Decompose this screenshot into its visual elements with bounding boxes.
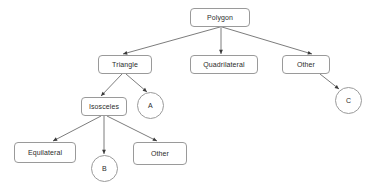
node-other-top[interactable]: Other — [282, 55, 330, 74]
node-label-circle-c: C — [346, 97, 351, 104]
node-label-circle-a: A — [148, 102, 153, 109]
edge-triangle-to-circle-a — [126, 74, 147, 92]
node-label-equilateral: Equilateral — [28, 149, 62, 156]
edge-triangle-to-isosceles — [101, 74, 122, 96]
node-polygon[interactable]: Polygon — [190, 8, 250, 27]
node-label-isosceles: Isosceles — [89, 103, 119, 110]
node-triangle[interactable]: Triangle — [98, 55, 152, 74]
node-label-other-top: Other — [297, 61, 315, 68]
edge-polygon-to-other-top — [222, 27, 312, 55]
edge-isosceles-to-equilateral — [53, 116, 101, 141]
edge-polygon-to-triangle — [123, 27, 220, 55]
node-circle-c[interactable]: C — [335, 87, 362, 114]
edge-isosceles-to-circle-b — [102, 116, 106, 154]
node-circle-a[interactable]: A — [137, 92, 164, 119]
node-label-triangle: Triangle — [112, 61, 138, 68]
node-other-bottom[interactable]: Other — [133, 142, 187, 165]
node-label-quadrilateral: Quadrilateral — [203, 61, 244, 68]
node-label-polygon: Polygon — [207, 14, 233, 21]
edge-other-top-to-circle-c — [320, 74, 339, 89]
node-label-circle-b: B — [102, 165, 107, 172]
edge-polygon-to-quadrilateral — [219, 27, 223, 54]
node-equilateral[interactable]: Equilateral — [14, 142, 76, 163]
edge-isosceles-to-other-bottom — [107, 116, 157, 141]
node-circle-b[interactable]: B — [91, 155, 118, 182]
node-isosceles[interactable]: Isosceles — [81, 97, 127, 116]
node-quadrilateral[interactable]: Quadrilateral — [190, 55, 258, 74]
diagram-canvas: PolygonTriangleQuadrilateralOtherCIsosce… — [0, 0, 369, 186]
node-label-other-bottom: Other — [151, 150, 169, 157]
